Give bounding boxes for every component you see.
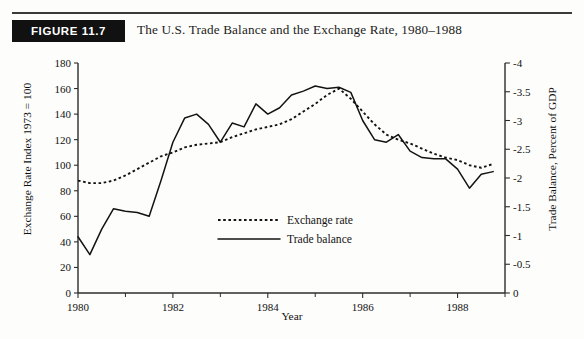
y-tick-label-right: -2 [513, 172, 522, 184]
chart-legend: Exchange rateTrade balance [218, 214, 353, 246]
y-tick-label-left: 60 [60, 210, 72, 222]
ticks-group [74, 63, 510, 298]
chart-container: Exchange Rate Index 1973 = 100 Trade Bal… [0, 48, 584, 339]
y-tick-label-left: 180 [55, 57, 72, 69]
y-tick-label-left: 100 [55, 159, 72, 171]
figure-title: The U.S. Trade Balance and the Exchange … [137, 22, 462, 38]
y-tick-label-left: 160 [55, 83, 72, 95]
chart-plot: 0204060801001201401601800-0.5-1-1.5-2-2.… [0, 48, 584, 339]
y-tick-label-left: 0 [66, 287, 72, 299]
x-tick-label: 1982 [162, 301, 184, 313]
y-tick-label-right: -0.5 [513, 258, 531, 270]
y-tick-label-left: 20 [60, 261, 72, 273]
x-tick-label: 1980 [67, 301, 90, 313]
x-tick-label: 1986 [352, 301, 375, 313]
y-tick-label-left: 80 [60, 185, 72, 197]
y-tick-label-right: -1.5 [513, 201, 531, 213]
y-tick-label-right: -2.5 [513, 143, 531, 155]
y-tick-label-left: 140 [55, 108, 72, 120]
x-tick-label: 1984 [257, 301, 280, 313]
figure-page: FIGURE 11.7 The U.S. Trade Balance and t… [0, 0, 584, 339]
y-tick-label-right: 0 [513, 287, 519, 299]
header-rule [12, 12, 572, 14]
series-group [78, 86, 493, 255]
x-tick-label: 1988 [447, 301, 470, 313]
tick-labels-group: 0204060801001201401601800-0.5-1-1.5-2-2.… [55, 57, 531, 313]
y-tick-label-right: -3.5 [513, 86, 531, 98]
figure-number-badge: FIGURE 11.7 [12, 20, 125, 42]
series-line-exchange-rate [78, 89, 493, 184]
y-tick-label-left: 40 [60, 236, 72, 248]
axes-group [78, 63, 505, 293]
y-tick-label-left: 120 [55, 134, 72, 146]
legend-label: Exchange rate [287, 214, 353, 227]
y-tick-label-right: -3 [513, 115, 523, 127]
y-tick-label-right: -4 [513, 57, 523, 69]
series-line-trade-balance [78, 86, 493, 255]
legend-label: Trade balance [287, 233, 352, 246]
y-tick-label-right: -1 [513, 230, 522, 242]
